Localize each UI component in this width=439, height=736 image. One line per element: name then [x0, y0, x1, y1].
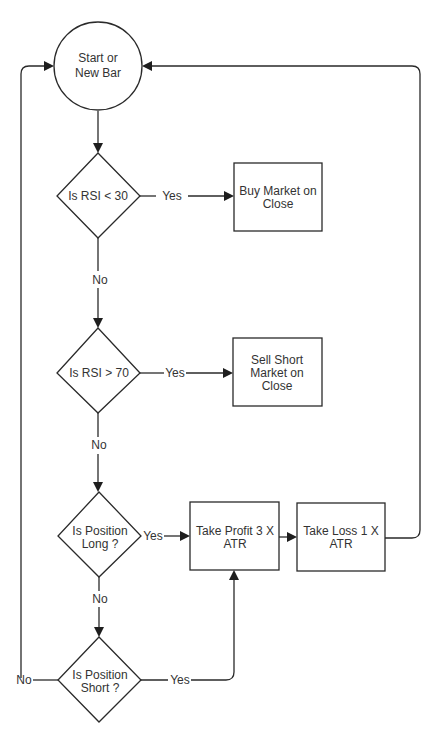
node-rsi-low: Is RSI < 30 — [57, 153, 140, 238]
node-take-profit: Take Profit 3 X ATR — [190, 502, 279, 570]
edge-loss-to-start — [151, 66, 420, 538]
svg-text:Long ?: Long ? — [82, 537, 119, 551]
edge-left-return — [21, 66, 45, 678]
edge-pos-short-yes — [141, 580, 234, 680]
label-no: No — [92, 273, 108, 287]
svg-text:Close: Close — [262, 379, 293, 393]
node-position-long: Is Position Long ? — [58, 492, 141, 577]
svg-text:Take Profit 3 X: Take Profit 3 X — [196, 524, 274, 538]
svg-text:Buy Market on: Buy Market on — [239, 184, 316, 198]
svg-text:Market on: Market on — [250, 366, 303, 380]
arrowhead-icon — [180, 531, 190, 541]
svg-text:Is RSI < 30: Is RSI < 30 — [68, 189, 128, 203]
label-no: No — [16, 673, 32, 687]
svg-text:Start or: Start or — [78, 51, 117, 65]
arrowhead-icon — [224, 191, 234, 201]
node-position-short: Is Position Short ? — [58, 637, 141, 722]
node-take-loss: Take Loss 1 X ATR — [297, 503, 385, 571]
label-yes: Yes — [165, 366, 185, 380]
svg-text:Is Position: Is Position — [72, 668, 127, 682]
svg-text:New Bar: New Bar — [75, 66, 121, 80]
node-start: Start or New Bar — [54, 22, 142, 110]
svg-text:ATR: ATR — [329, 537, 352, 551]
arrowhead-icon — [229, 570, 239, 580]
arrowhead-icon — [287, 532, 297, 542]
svg-text:Sell Short: Sell Short — [251, 353, 304, 367]
flowchart: Start or New Bar Is RSI < 30 Yes No Buy … — [0, 0, 439, 736]
svg-text:Close: Close — [263, 197, 294, 211]
svg-text:Take Loss 1 X: Take Loss 1 X — [303, 524, 378, 538]
label-yes: Yes — [162, 189, 182, 203]
node-sell: Sell Short Market on Close — [233, 338, 322, 406]
svg-text:Short ?: Short ? — [81, 681, 120, 695]
arrowhead-icon — [44, 61, 54, 71]
arrowhead-icon — [93, 143, 103, 153]
svg-text:Is Position: Is Position — [72, 524, 127, 538]
label-yes: Yes — [170, 673, 190, 687]
label-no: No — [92, 592, 108, 606]
arrowhead-icon — [93, 318, 103, 328]
arrowhead-icon — [142, 61, 152, 71]
label-no: No — [91, 438, 107, 452]
svg-text:Is RSI > 70: Is RSI > 70 — [69, 366, 129, 380]
arrowhead-icon — [223, 368, 233, 378]
svg-text:ATR: ATR — [223, 537, 246, 551]
arrowhead-icon — [94, 627, 104, 637]
arrowhead-icon — [93, 482, 103, 492]
node-buy: Buy Market on Close — [234, 163, 322, 231]
node-rsi-high: Is RSI > 70 — [57, 328, 140, 413]
label-yes: Yes — [143, 529, 163, 543]
